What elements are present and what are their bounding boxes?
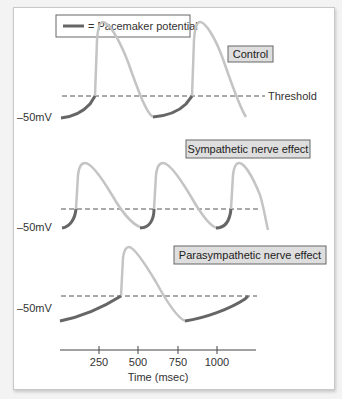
legend: = Pacemaker potential	[56, 15, 198, 37]
action-potential	[192, 22, 246, 117]
tick-label: 250	[90, 356, 108, 368]
x-axis: 250 500 750 1000 Time (msec)	[60, 346, 256, 383]
action-potential	[154, 163, 218, 228]
pacemaker-potential	[61, 96, 95, 118]
pacemaker-potential	[185, 296, 248, 321]
panel-parasympathetic: Parasympathetic nerve effect –50mV	[17, 246, 326, 321]
panel-title: Control	[233, 48, 268, 60]
panel-title: Sympathetic nerve effect	[188, 143, 309, 155]
baseline-label: –50mV	[17, 111, 53, 123]
panel-sympathetic: Sympathetic nerve effect –50mV	[17, 140, 310, 233]
action-potential	[76, 163, 145, 228]
pacemaker-potential	[153, 96, 192, 117]
pacemaker-potential	[216, 209, 231, 228]
panel-title: Parasympathetic nerve effect	[179, 249, 321, 261]
tick-label: 1000	[205, 356, 229, 368]
threshold-label: Threshold	[268, 90, 317, 102]
baseline-label: –50mV	[17, 302, 53, 314]
action-potential	[231, 163, 268, 230]
tick-label: 500	[129, 356, 147, 368]
axis-label: Time (msec)	[128, 371, 189, 383]
pacemaker-potential	[62, 209, 76, 228]
pacemaker-potential	[140, 209, 154, 228]
baseline-label: –50mV	[17, 221, 53, 233]
pacemaker-potential	[60, 296, 121, 321]
tick-label: 750	[169, 356, 187, 368]
pacemaker-diagram: = Pacemaker potential Control Threshold …	[0, 0, 342, 399]
